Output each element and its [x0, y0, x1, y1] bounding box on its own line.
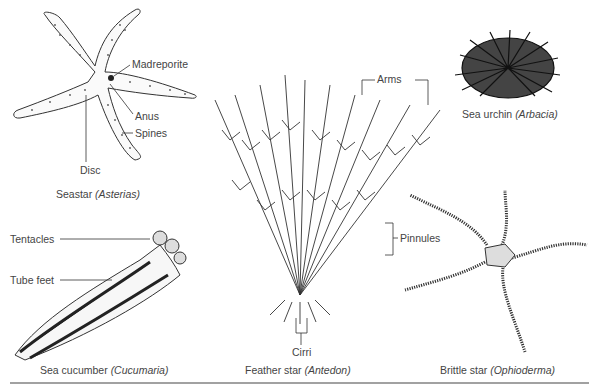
caption-brittle-star: Brittle star (Ophioderma) [440, 364, 555, 376]
label-anus: Anus [135, 110, 159, 122]
caption-feather-star: Feather star (Antedon) [245, 364, 351, 376]
madreporite-dot [108, 75, 114, 81]
caption-sea-urchin: Sea urchin (Arbacia) [462, 108, 558, 120]
caption-brittle-star-genus: (Ophioderma) [490, 364, 555, 376]
caption-seastar: Seastar (Asterias) [56, 188, 140, 200]
label-pinnules: Pinnules [400, 232, 440, 244]
label-tentacles: Tentacles [10, 233, 54, 245]
sea-urchin-illustration [455, 30, 560, 98]
feather-star-illustration [215, 75, 440, 324]
caption-sea-cucumber-common: Sea cucumber [40, 364, 108, 376]
caption-sea-cucumber-genus: (Cucumaria) [111, 364, 169, 376]
caption-seastar-genus: (Asterias) [95, 188, 140, 200]
label-spines: Spines [135, 127, 167, 139]
seastar-illustration [14, 9, 196, 160]
label-cirri: Cirri [292, 346, 311, 358]
label-tube-feet: Tube feet [10, 274, 54, 286]
label-arms: Arms [377, 73, 402, 85]
caption-sea-urchin-genus: (Arbacia) [515, 108, 558, 120]
caption-seastar-common: Seastar [56, 188, 92, 200]
brittle-star-disc [485, 244, 515, 267]
caption-sea-urchin-common: Sea urchin [462, 108, 512, 120]
caption-feather-star-genus: (Antedon) [305, 364, 351, 376]
caption-feather-star-common: Feather star [245, 364, 302, 376]
sea-cucumber-illustration [15, 231, 186, 360]
caption-sea-cucumber: Sea cucumber (Cucumaria) [40, 364, 168, 376]
label-disc: Disc [80, 164, 100, 176]
brittle-star-illustration [405, 190, 587, 352]
label-madreporite: Madreporite [132, 58, 188, 70]
caption-brittle-star-common: Brittle star [440, 364, 487, 376]
